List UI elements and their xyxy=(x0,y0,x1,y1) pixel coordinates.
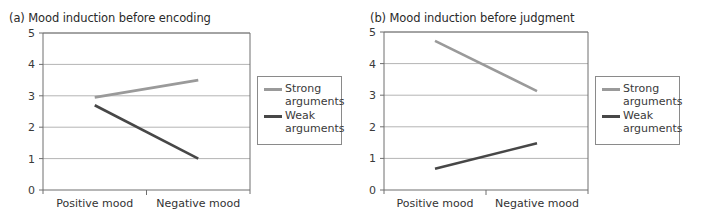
legend-label-strong-1: Strong xyxy=(285,82,321,95)
y-tick-label: 1 xyxy=(369,152,376,165)
x-category-label: Negative mood xyxy=(156,197,240,210)
y-tick-label: 5 xyxy=(28,27,35,40)
series-line-strong-arguments xyxy=(95,80,199,97)
legend-item-weak: Weak arguments xyxy=(264,109,337,135)
y-tick-label: 2 xyxy=(28,121,35,134)
legend-label-strong-2: arguments xyxy=(285,95,345,108)
weak-line-swatch-icon xyxy=(602,115,620,118)
legend-item-strong: Strong arguments xyxy=(264,82,337,108)
legend-label-strong-1: Strong xyxy=(623,82,659,95)
x-category-label: Positive mood xyxy=(396,197,473,210)
legend-b: Strong arguments Weak arguments xyxy=(595,76,680,145)
weak-line-swatch-icon xyxy=(264,115,282,118)
legend-label-weak-1: Weak xyxy=(623,109,653,122)
y-tick-label: 0 xyxy=(369,184,376,197)
chart-panel-a: (a) Mood induction before encoding 01234… xyxy=(0,0,350,220)
y-tick-label: 3 xyxy=(28,90,35,103)
y-tick-label: 0 xyxy=(28,184,35,197)
series-line-weak-arguments xyxy=(435,143,537,169)
legend-item-weak: Weak arguments xyxy=(602,109,675,135)
series-line-weak-arguments xyxy=(95,105,199,158)
legend-item-strong: Strong arguments xyxy=(602,82,675,108)
y-tick-label: 5 xyxy=(369,26,376,39)
legend-label-weak-2: arguments xyxy=(285,122,345,135)
y-tick-label: 4 xyxy=(28,58,35,71)
strong-line-swatch-icon xyxy=(602,88,620,91)
y-tick-label: 1 xyxy=(28,153,35,166)
y-tick-label: 4 xyxy=(369,58,376,71)
legend-label-weak-1: Weak xyxy=(285,109,315,122)
chart-title-b: (b) Mood induction before judgment xyxy=(370,11,574,25)
legend-label-strong-2: arguments xyxy=(623,95,683,108)
y-tick-label: 2 xyxy=(369,121,376,134)
legend-label-weak-2: arguments xyxy=(623,122,683,135)
x-category-label: Positive mood xyxy=(56,197,133,210)
x-category-label: Negative mood xyxy=(495,197,579,210)
strong-line-swatch-icon xyxy=(264,88,282,91)
legend-a: Strong arguments Weak arguments xyxy=(257,76,342,145)
y-tick-label: 3 xyxy=(369,89,376,102)
series-line-strong-arguments xyxy=(435,41,537,91)
